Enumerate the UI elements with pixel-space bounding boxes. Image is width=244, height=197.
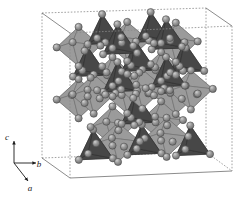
atom-sphere [93, 140, 100, 147]
atom-sphere [75, 76, 82, 83]
axis-label-c: c [5, 132, 9, 142]
atom-sphere [131, 122, 138, 129]
atom-sphere [103, 118, 110, 125]
atom-sphere [151, 113, 158, 120]
atom-sphere [133, 145, 140, 152]
atom-sphere [206, 151, 213, 158]
atom-sphere [166, 34, 173, 41]
structure-canvas: cba [0, 0, 244, 197]
atom-sphere [187, 106, 194, 113]
atom-sphere [178, 95, 185, 102]
atom-sphere [130, 94, 137, 101]
atom-sphere [150, 40, 157, 47]
atom-sphere [97, 42, 104, 49]
atom-sphere [163, 153, 170, 160]
atom-sphere [90, 110, 97, 117]
atom-sphere [209, 85, 216, 92]
atom-sphere [172, 71, 179, 78]
atom-sphere [201, 67, 208, 74]
atom-sphere [182, 146, 189, 153]
atom-sphere [131, 72, 138, 79]
atom-sphere [194, 38, 201, 45]
atom-sphere [99, 63, 106, 70]
atom-sphere [109, 93, 116, 100]
atom-sphere [114, 21, 121, 28]
atom-sphere [81, 99, 88, 106]
atom-sphere [115, 127, 122, 134]
atom-sphere [181, 82, 188, 89]
atom-sphere [163, 114, 170, 121]
atom-sphere [147, 9, 154, 16]
atom-sphere [94, 35, 101, 42]
atom-sphere [142, 32, 149, 39]
atom-sphere [162, 16, 169, 23]
atom-sphere [172, 19, 179, 26]
atom-sphere [108, 134, 115, 141]
atom-sphere [134, 49, 141, 56]
atom-sphere [75, 63, 82, 70]
atom-sphere [172, 152, 179, 159]
atom-sphere [178, 43, 185, 50]
atom-sphere [139, 105, 146, 112]
atom-sphere [120, 143, 127, 150]
atom-sphere [94, 87, 101, 94]
atom-sphere [158, 98, 165, 105]
atom-sphere [130, 42, 137, 49]
atom-sphere [87, 74, 94, 81]
atom-sphere [118, 34, 125, 41]
atom-sphere [84, 86, 91, 93]
atom-sphere [133, 81, 140, 88]
atom-sphere [85, 150, 92, 157]
atom-sphere [75, 156, 82, 163]
atom-sphere [109, 82, 116, 89]
axis-label-a: a [28, 183, 33, 193]
atom-sphere [87, 123, 94, 130]
atom-sphere [124, 151, 131, 158]
axis-label-b: b [37, 159, 42, 169]
atom-sphere [102, 91, 109, 98]
atom-sphere [124, 58, 131, 65]
atom-sphere [109, 103, 116, 110]
atom-sphere [157, 77, 164, 84]
atom-sphere [124, 18, 131, 25]
atom-sphere [164, 122, 171, 129]
atom-sphere [172, 58, 179, 65]
atom-sphere [53, 44, 60, 51]
atom-sphere [142, 85, 149, 92]
atom-sphere [75, 23, 82, 30]
atom-sphere [124, 110, 131, 117]
atom-sphere [157, 40, 164, 47]
atom-sphere [136, 138, 143, 145]
atom-sphere [147, 61, 154, 68]
atom-sphere [118, 120, 125, 127]
atom-sphere [81, 47, 88, 54]
atom-sphere [166, 87, 173, 94]
atom-sphere [99, 11, 106, 18]
atom-sphere [194, 90, 201, 97]
atom-sphere [187, 67, 194, 74]
atom-sphere [169, 138, 176, 145]
crystal-structure-figure: cba [0, 0, 244, 197]
atom-sphere [158, 88, 165, 95]
atom-sphere [124, 71, 131, 78]
atom-sphere [84, 41, 91, 48]
atom-sphere [179, 117, 186, 124]
atom-sphere [115, 77, 122, 84]
atom-sphere [150, 92, 157, 99]
atom-sphere [158, 137, 165, 144]
atom-sphere [109, 45, 116, 52]
atom-sphere [172, 111, 179, 118]
atom-sphere [157, 129, 164, 136]
atom-sphere [100, 51, 107, 58]
atom-sphere [109, 54, 116, 61]
atom-sphere [158, 49, 165, 56]
atom-sphere [114, 158, 121, 165]
atom-sphere [187, 122, 194, 129]
atom-sphere [118, 86, 125, 93]
atom-sphere [84, 93, 91, 100]
atom-sphere [185, 133, 192, 140]
atom-sphere [103, 69, 110, 76]
atom-sphere [53, 96, 60, 103]
atom-sphere [75, 115, 82, 122]
atom-sphere [109, 142, 116, 149]
